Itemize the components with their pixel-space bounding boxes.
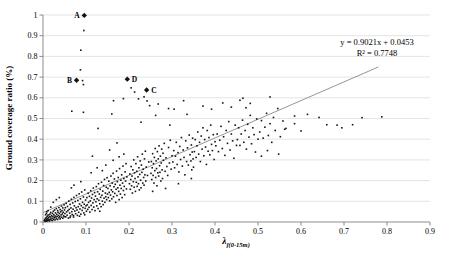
labeled-point-letter: C <box>151 86 156 95</box>
y-tick-label: 0.7 <box>28 73 38 82</box>
x-tick-label: 0.4 <box>210 227 220 236</box>
y-tick-label: 0.8 <box>28 52 38 61</box>
x-tick-label: 0.5 <box>253 227 263 236</box>
x-tick-label: 0.7 <box>339 227 349 236</box>
x-tick-label: 0.8 <box>382 227 392 236</box>
labeled-point-letter: A <box>74 11 80 20</box>
y-tick-label: 0 <box>34 218 38 227</box>
labeled-points: ABCD <box>67 11 157 95</box>
x-tick-label: 0 <box>41 227 45 236</box>
x-tick-label: 0.9 <box>425 227 435 236</box>
y-tick-label: 0.4 <box>28 135 38 144</box>
y-tick-label: 0.9 <box>28 31 38 40</box>
x-axis-title-subscript: f(0-15m) <box>226 241 249 248</box>
labeled-point-letter: B <box>67 76 72 85</box>
x-tick-label: 0.1 <box>81 227 91 236</box>
scatter-plot-figure: 00.10.20.30.40.50.60.70.80.900.10.20.30.… <box>0 0 453 258</box>
trendline-annotation: y = 0.9021x + 0.0453 R² = 0.7748 <box>340 37 413 58</box>
scatter-points <box>43 30 382 222</box>
y-tick-label: 0.5 <box>28 114 38 123</box>
x-axis-title: λf(0-15m) <box>222 236 250 248</box>
y-tick-label: 0.6 <box>28 93 38 102</box>
y-axis: 00.10.20.30.40.50.60.70.80.91 <box>28 11 44 227</box>
labeled-point-marker <box>144 87 149 92</box>
y-tick-label: 1 <box>34 11 38 20</box>
y-axis-title: Ground coverage ratio (%) <box>4 66 14 171</box>
x-tick-label: 0.3 <box>167 227 177 236</box>
x-tick-label: 0.2 <box>124 227 134 236</box>
y-tick-label: 0.2 <box>28 176 38 185</box>
trendline-equation: y = 0.9021x + 0.0453 <box>340 37 413 48</box>
y-tick-label: 0.3 <box>28 156 38 165</box>
labeled-point-letter: D <box>132 75 138 84</box>
x-tick-label: 0.6 <box>296 227 306 236</box>
trend-line <box>43 67 378 213</box>
y-tick-label: 0.1 <box>28 197 38 206</box>
labeled-point-marker <box>74 78 79 83</box>
labeled-point-marker <box>82 13 87 18</box>
trendline-r-squared: R² = 0.7748 <box>340 48 413 59</box>
x-axis: 00.10.20.30.40.50.60.70.80.9 <box>41 222 435 236</box>
